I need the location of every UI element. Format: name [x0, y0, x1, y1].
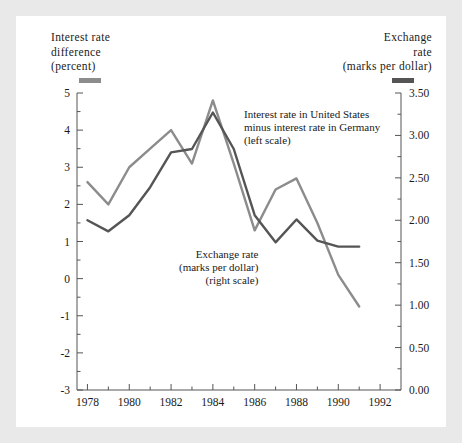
left-axis-tick-label: -2: [60, 347, 70, 359]
left-axis-tick-label: -3: [60, 384, 70, 396]
right-axis-tick-label: 3.50: [409, 87, 429, 99]
right-axis-tick-label: 1.00: [409, 299, 429, 311]
x-axis-tick-label: 1982: [160, 396, 183, 408]
right-axis-caption-line2: rate: [413, 46, 432, 58]
x-axis-tick-label: 1978: [76, 396, 99, 408]
left-axis-tick-label: 0: [64, 273, 70, 285]
right-axis-tick-label: 1.50: [409, 257, 429, 269]
right-series-color-swatch: [392, 78, 414, 83]
left-axis-caption: Interest rate difference (percent): [51, 31, 110, 83]
left-axis-tick-label: 3: [64, 161, 70, 173]
x-axis-tick-label: 1984: [201, 396, 224, 408]
annotation-exchange-line1: Exchange rate: [196, 248, 259, 260]
right-axis-tick-label: 2.00: [409, 214, 429, 226]
right-axis-tick-label: 0.00: [409, 384, 429, 396]
x-axis-tick-label: 1992: [369, 396, 392, 408]
right-axis-caption-line1: Exchange: [384, 31, 432, 43]
left-axis-caption-line2: difference: [51, 46, 101, 58]
left-axis-caption-line3: (percent): [51, 60, 96, 72]
right-axis-tick-label: 0.50: [409, 342, 429, 354]
left-axis-tick-label: 4: [64, 124, 70, 136]
x-axis-tick-label: 1986: [243, 396, 266, 408]
annotation-interest-line2: minus interest rate in Germany: [244, 121, 380, 133]
right-axis-caption: Exchange rate (marks per dollar): [343, 31, 432, 83]
annotation-interest-rate: Interest rate in United States minus int…: [244, 108, 380, 147]
left-axis-tick-label: 1: [64, 236, 70, 248]
right-axis-tick-label: 2.50: [409, 172, 429, 184]
left-axis-caption-line1: Interest rate: [51, 31, 110, 43]
right-axis-tick-label: 3.00: [409, 129, 429, 141]
annotation-interest-line1: Interest rate in United States: [244, 108, 369, 120]
annotation-exchange-line2: (marks per dollar): [179, 261, 258, 273]
x-axis-tick-label: 1980: [118, 396, 141, 408]
left-series-color-swatch: [79, 78, 101, 83]
left-axis-tick-label: 5: [64, 87, 70, 99]
left-axis-tick-label: -1: [60, 310, 70, 322]
annotation-exchange-rate: Exchange rate (marks per dollar) (right …: [179, 248, 258, 287]
annotation-exchange-line3: (right scale): [206, 274, 259, 286]
figure-frame: Interest rate difference (percent) Excha…: [16, 16, 446, 427]
left-axis-tick-label: 2: [64, 198, 70, 210]
x-axis-tick-label: 1990: [327, 396, 350, 408]
annotation-interest-line3: (left scale): [244, 134, 291, 146]
right-axis-caption-line3: (marks per dollar): [343, 60, 432, 72]
x-axis-tick-label: 1988: [285, 396, 308, 408]
